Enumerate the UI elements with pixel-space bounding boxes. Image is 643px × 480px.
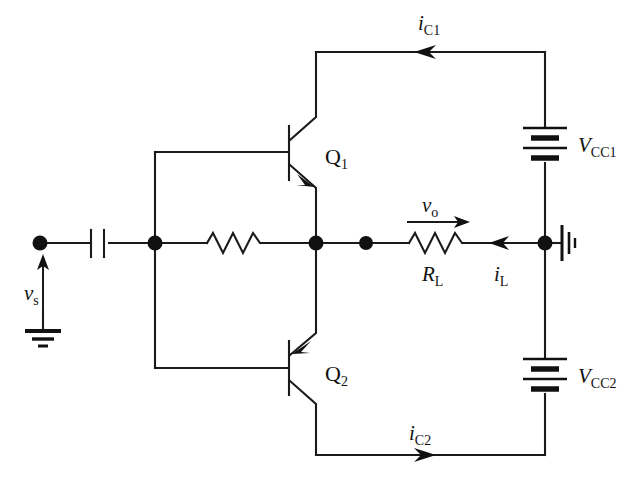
current-ic2-label: iC2 xyxy=(409,421,431,448)
load-resistor-label: RL xyxy=(421,262,443,289)
base-drive-bus xyxy=(155,152,288,368)
output-voltage-arrow: vo xyxy=(407,193,470,228)
load-resistor xyxy=(409,233,467,253)
q2-collector-lead xyxy=(290,381,316,455)
q1-emitter-arrow xyxy=(296,174,314,187)
bias-resistor-zigzag xyxy=(207,233,265,253)
source-voltage-label: vs xyxy=(24,281,39,308)
terminal-dot-input xyxy=(33,236,48,251)
q2-emitter-lead xyxy=(290,243,316,355)
battery-vcc2-label: VCC2 xyxy=(578,364,617,391)
transistor-q1-label: Q1 xyxy=(325,144,348,172)
output-voltage-label: vo xyxy=(422,193,438,220)
junction-dot-supply xyxy=(538,236,553,251)
q1-collector-lead xyxy=(290,52,316,140)
q1-emitter-lead xyxy=(290,165,316,243)
transistor-q2: Q2 xyxy=(289,243,348,455)
junction-dot-output xyxy=(359,236,373,250)
load-resistor-zigzag xyxy=(409,233,467,253)
circuit-diagram: Q1 Q2 VCC1 VCC2 xyxy=(0,0,643,480)
current-ic1-label: iC1 xyxy=(418,11,440,38)
current-il-label: iL xyxy=(494,262,508,289)
transistor-q1: Q1 xyxy=(289,52,348,243)
battery-vcc1: VCC1 xyxy=(523,128,617,160)
collector-loop-top xyxy=(316,52,545,127)
battery-vcc2: VCC2 xyxy=(523,359,617,391)
battery-vcc1-label: VCC1 xyxy=(578,133,617,160)
junction-dot-base xyxy=(148,236,163,251)
source-voltage-arrow: vs xyxy=(24,254,49,330)
input-capacitor xyxy=(91,230,104,257)
transistor-q2-label: Q2 xyxy=(325,361,348,389)
schematic-canvas: Q1 Q2 VCC1 VCC2 xyxy=(0,0,643,480)
junction-dot-emitter xyxy=(309,236,324,251)
bias-resistor xyxy=(207,233,265,253)
